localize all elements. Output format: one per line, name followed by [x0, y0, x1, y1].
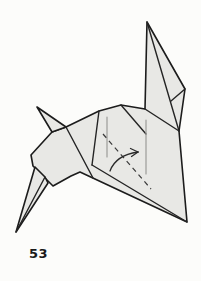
origami-step-diagram	[0, 0, 201, 281]
diagram-page: 53	[0, 0, 201, 281]
step-number: 53	[29, 246, 48, 261]
left-ear-spike-shape	[37, 107, 66, 132]
